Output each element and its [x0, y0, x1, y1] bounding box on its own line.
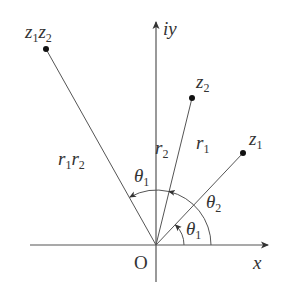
label-z1: z1 — [248, 128, 262, 152]
label-theta2: θ2 — [206, 191, 221, 215]
origin-label: O — [134, 252, 148, 273]
arc-theta1-upper — [130, 190, 169, 197]
label-r2: r2 — [155, 137, 168, 161]
y-axis-label: iy — [163, 18, 177, 39]
label-z1z2: z1z2 — [24, 21, 52, 45]
label-z2: z2 — [195, 71, 209, 95]
point-z1 — [240, 150, 246, 156]
arc-theta1-lower — [176, 225, 185, 245]
point-z2 — [189, 95, 195, 101]
label-r1: r1 — [196, 132, 209, 156]
ray-z1z2 — [46, 49, 156, 245]
point-z1z2 — [43, 46, 49, 52]
label-theta1-upper: θ1 — [134, 165, 149, 189]
label-theta1-lower: θ1 — [186, 218, 201, 242]
label-r1r2: r1r2 — [58, 148, 85, 172]
complex-multiplication-diagram: iy x O z1 z2 z1z2 r1 r2 r1r2 θ1 θ2 θ1 — [0, 0, 285, 296]
x-axis-label: x — [252, 252, 262, 273]
